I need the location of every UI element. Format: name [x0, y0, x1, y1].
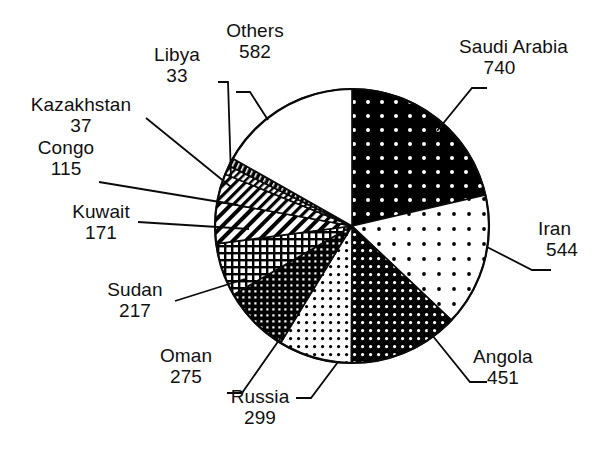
label-kazakhstan: Kazakhstan 37: [22, 94, 140, 136]
label-saudi-arabia-name: Saudi Arabia: [459, 36, 568, 57]
label-russia-value: 299: [223, 407, 297, 428]
label-sudan-value: 217: [97, 300, 173, 321]
label-kuwait: Kuwait 171: [62, 201, 140, 243]
label-others-value: 582: [215, 41, 295, 62]
label-oman: Oman 275: [151, 345, 221, 387]
label-angola: Angola 451: [473, 346, 533, 388]
label-libya-value: 33: [146, 65, 208, 86]
label-others: Others 582: [215, 20, 295, 62]
label-angola-value: 451: [487, 367, 533, 388]
label-congo-name: Congo: [28, 137, 104, 158]
label-sudan: Sudan 217: [97, 279, 173, 321]
label-libya-name: Libya: [146, 44, 208, 65]
leader-kazakhstan: [146, 118, 231, 187]
label-oman-value: 275: [151, 366, 221, 387]
label-iran: Iran 544: [538, 218, 578, 260]
label-congo-value: 115: [28, 158, 104, 179]
label-kazakhstan-name: Kazakhstan: [22, 94, 140, 115]
label-iran-value: 544: [546, 239, 578, 260]
label-sudan-name: Sudan: [97, 279, 173, 300]
label-others-name: Others: [215, 20, 295, 41]
pie-chart: Saudi Arabia 740 Iran 544 Angola 451 Rus…: [0, 0, 600, 453]
pie-slices: [215, 89, 489, 363]
label-russia-name: Russia: [223, 386, 297, 407]
label-angola-name: Angola: [473, 346, 533, 367]
label-congo: Congo 115: [28, 137, 104, 179]
leader-libya: [218, 82, 231, 177]
label-kuwait-name: Kuwait: [62, 201, 140, 222]
label-iran-name: Iran: [538, 218, 578, 239]
label-kazakhstan-value: 37: [22, 115, 140, 136]
label-saudi-arabia-value: 740: [459, 57, 568, 78]
label-libya: Libya 33: [146, 44, 208, 86]
label-kuwait-value: 171: [62, 222, 140, 243]
label-saudi-arabia: Saudi Arabia 740: [459, 36, 568, 78]
label-russia: Russia 299: [223, 386, 297, 428]
leader-others: [236, 92, 268, 120]
leader-oman: [227, 333, 284, 393]
leader-russia: [296, 362, 338, 398]
label-oman-name: Oman: [151, 345, 221, 366]
